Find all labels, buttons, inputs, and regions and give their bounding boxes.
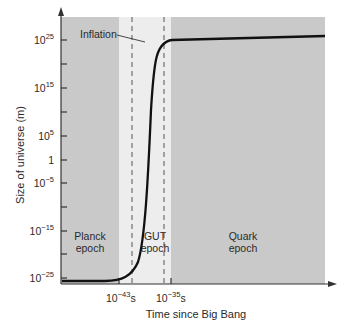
planck-epoch-label: epoch [76,242,105,254]
inflation-label: Inflation [80,28,117,40]
y-tick-label: 1015 [34,80,54,94]
y-axis-arrow-icon [58,7,64,16]
x-tick-label: 10−35s [156,290,186,304]
chart: 1025 1015 105 1 10−5 10−15 10−25 10−43s … [0,0,345,327]
y-tick-label: 10−5 [34,175,54,189]
y-axis-title: Size of universe (m) [14,106,26,204]
quark-epoch-label: epoch [229,242,258,254]
planck-epoch-label: Planck [74,230,106,242]
y-tick-label: 1 [48,154,54,166]
x-axis-arrow-icon [328,281,337,287]
gut-epoch-label: GUT [144,230,167,242]
gut-epoch-label: epoch [141,242,170,254]
y-tick-label: 10−15 [30,223,54,237]
y-tick-label: 10−25 [30,270,54,284]
y-tick-label: 105 [38,128,54,142]
quark-epoch-label: Quark [229,230,258,242]
x-axis-title: Time since Big Bang [146,308,246,320]
y-tick-label: 1025 [34,32,54,46]
x-tick-label: 10−43s [106,290,136,304]
